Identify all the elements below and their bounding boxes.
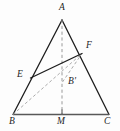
geometry-figure: A F E B' B M C xyxy=(0,0,120,131)
vertex-label-b-prime: B' xyxy=(68,77,76,87)
vertex-label-m: M xyxy=(57,117,65,127)
vertex-label-b: B xyxy=(9,117,15,127)
segment-ac xyxy=(62,20,109,115)
vertex-label-e: E xyxy=(17,70,23,80)
vertex-label-c: C xyxy=(104,117,111,127)
vertex-label-f: F xyxy=(86,41,92,51)
figure-canvas xyxy=(0,0,120,131)
vertex-label-a: A xyxy=(59,3,65,13)
